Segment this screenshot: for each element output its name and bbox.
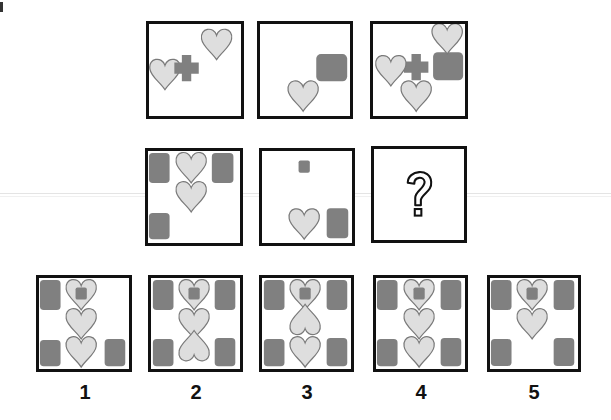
- option-figure: [262, 278, 351, 369]
- heart-icon: [404, 337, 434, 367]
- small-square-icon: [188, 287, 199, 299]
- rounded-square-icon: [264, 280, 285, 310]
- heart-icon: [401, 81, 431, 111]
- heart-icon: [176, 152, 206, 182]
- small-square-icon: [299, 160, 310, 172]
- option-4[interactable]: [373, 275, 468, 372]
- heart-icon: [288, 81, 318, 111]
- heart-icon: [290, 337, 320, 367]
- matrix-cell-b3-missing: [371, 146, 467, 243]
- rounded-square-icon: [327, 208, 349, 238]
- rounded-square-icon: [491, 339, 512, 366]
- heart-icon: [404, 309, 434, 339]
- matrix-cell-b2: [259, 148, 355, 246]
- rounded-square-icon: [149, 153, 170, 183]
- option-figure: [151, 278, 240, 369]
- heart-icon: [517, 309, 547, 339]
- rounded-square-icon: [153, 339, 174, 366]
- rounded-square-icon: [153, 280, 174, 310]
- small-square-icon: [413, 287, 424, 299]
- small-square-icon: [527, 287, 538, 299]
- rounded-square-icon: [215, 280, 236, 310]
- rounded-square-icon: [554, 280, 575, 310]
- heart-icon: [66, 337, 96, 367]
- cross-icon: [404, 54, 428, 80]
- rounded-square-icon: [554, 338, 575, 366]
- heart-icon: [201, 29, 231, 59]
- rounded-square-icon: [212, 153, 234, 183]
- heart-icon: [176, 182, 206, 212]
- rounded-square-icon: [327, 338, 348, 366]
- option-5[interactable]: [487, 275, 581, 372]
- heart-icon: [66, 309, 96, 339]
- rounded-square-icon: [491, 280, 512, 310]
- cell-figure: [373, 24, 465, 116]
- option-3-label[interactable]: 3: [287, 381, 327, 404]
- option-3[interactable]: [259, 275, 354, 372]
- option-2[interactable]: [148, 275, 243, 372]
- rounded-square-icon: [377, 339, 398, 366]
- option-1[interactable]: [36, 275, 132, 372]
- rounded-square-icon: [441, 280, 462, 310]
- edge-artifact: [0, 2, 3, 12]
- option-2-label[interactable]: 2: [176, 381, 216, 404]
- heart-icon: [289, 209, 319, 239]
- option-figure: [376, 278, 465, 369]
- rounded-square-icon: [316, 54, 347, 81]
- rounded-square-icon: [264, 339, 285, 366]
- option-4-label[interactable]: 4: [401, 381, 441, 404]
- rounded-square-icon: [149, 213, 170, 239]
- cross-icon: [174, 55, 198, 81]
- rounded-square-icon: [40, 340, 61, 366]
- rounded-square-icon: [441, 338, 462, 366]
- option-figure: [490, 278, 578, 369]
- option-figure: [39, 278, 129, 369]
- rounded-square-icon: [377, 280, 398, 310]
- option-5-label[interactable]: 5: [514, 381, 554, 404]
- option-1-label[interactable]: 1: [65, 381, 105, 404]
- rounded-square-icon: [327, 280, 348, 310]
- matrix-cell-a3: [370, 21, 468, 119]
- rounded-square-icon: [40, 280, 61, 310]
- rounded-square-icon: [105, 339, 126, 366]
- matrix-cell-b1: [145, 148, 243, 246]
- question-mark-icon: [374, 149, 464, 240]
- matrix-cell-a1: [146, 21, 244, 119]
- heart-icon: [432, 24, 462, 54]
- rounded-square-icon: [433, 52, 463, 80]
- matrix-cell-a2: [257, 21, 353, 119]
- rounded-square-icon: [215, 338, 236, 366]
- cell-figure: [149, 24, 241, 116]
- heart-icon: [376, 56, 406, 86]
- cell-figure: [148, 151, 240, 243]
- inverted-heart-icon: [290, 304, 320, 334]
- inverted-heart-icon: [179, 331, 209, 361]
- cell-figure: [260, 24, 350, 116]
- small-square-icon: [299, 287, 310, 299]
- cell-figure: [262, 151, 352, 243]
- small-square-icon: [76, 287, 87, 299]
